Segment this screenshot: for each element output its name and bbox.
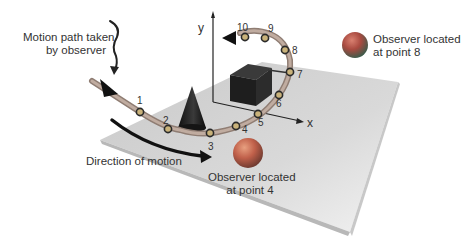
- observer-sphere-point-8: [342, 32, 368, 58]
- path-point-8: [281, 46, 288, 53]
- x-axis-label: x: [307, 116, 313, 130]
- svg-text:6: 6: [276, 98, 282, 109]
- direction-of-motion-label: Direction of motion: [86, 155, 182, 168]
- observer-point-8-line1: Observer located: [373, 33, 461, 46]
- svg-text:9: 9: [268, 23, 274, 34]
- svg-text:3: 3: [208, 141, 214, 152]
- svg-text:1: 1: [137, 95, 143, 106]
- down-arrow-icon: [110, 66, 119, 75]
- motion-path-label: Motion path taken by observer: [23, 31, 106, 57]
- svg-text:5: 5: [258, 117, 264, 128]
- observer-point-4-line1: Observer located: [208, 171, 292, 184]
- path-point-7: [286, 68, 293, 75]
- observer-sphere-point-4: [233, 138, 263, 168]
- motion-path-label-line2: by observer: [23, 44, 106, 57]
- svg-text:10: 10: [237, 22, 249, 33]
- y-axis-label: y: [198, 21, 204, 35]
- path-point-3: [206, 129, 213, 136]
- path-point-9: [261, 34, 268, 41]
- motion-path-label-arrow: [110, 21, 119, 75]
- observer-point-4-label: Observer located at point 4: [208, 171, 292, 197]
- svg-text:2: 2: [163, 115, 169, 126]
- motion-path-label-line1: Motion path taken: [23, 31, 106, 44]
- path-point-10: [241, 33, 248, 40]
- path-point-1: [136, 108, 143, 115]
- path-point-4: [232, 122, 239, 129]
- observer-point-8-line2: at point 8: [373, 46, 461, 59]
- observer-point-4-line2: at point 4: [208, 184, 292, 197]
- path-point-2: [164, 125, 171, 132]
- end-arrow-icon: [222, 31, 236, 45]
- svg-text:7: 7: [297, 69, 303, 80]
- svg-text:4: 4: [242, 124, 248, 135]
- observer-point-8-label: Observer located at point 8: [373, 33, 461, 59]
- svg-text:8: 8: [292, 45, 298, 56]
- start-arrow-icon: [100, 79, 118, 97]
